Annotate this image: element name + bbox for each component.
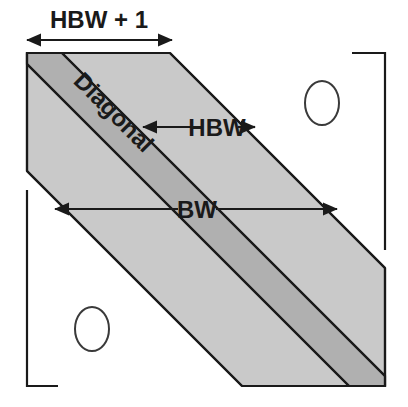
- bracket-upper-right: [352, 53, 385, 250]
- bw-label: BW: [177, 196, 217, 223]
- banded-matrix-diagram: HBW + 1 HBW BW Diagonal: [0, 0, 408, 407]
- upper-right-zero-icon: [305, 81, 339, 125]
- lower-left-zero-icon: [75, 307, 109, 351]
- bracket-lower-left: [27, 190, 58, 386]
- hbw-plus-one-dimension: HBW + 1: [27, 6, 172, 40]
- diagram-canvas: HBW + 1 HBW BW Diagonal: [0, 0, 408, 407]
- hbw-plus-one-label: HBW + 1: [50, 6, 148, 33]
- hbw-label: HBW: [188, 114, 246, 141]
